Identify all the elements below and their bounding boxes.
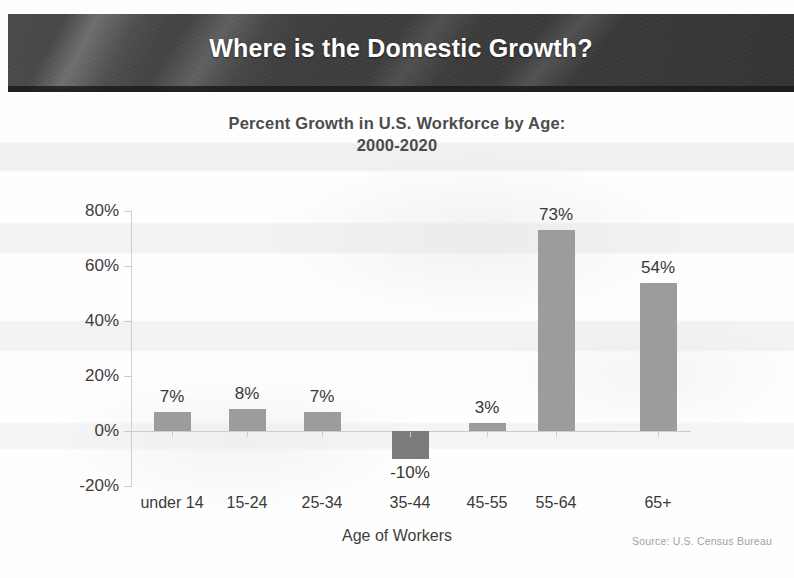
x-axis-category-label: 45-55 bbox=[432, 494, 542, 512]
x-axis-tick-mark bbox=[247, 432, 248, 437]
chart-title: Percent Growth in U.S. Workforce by Age:… bbox=[0, 112, 794, 156]
x-axis-tick-mark bbox=[487, 432, 488, 437]
slide-title: Where is the Domestic Growth? bbox=[8, 34, 794, 63]
x-axis-category-label: 55-64 bbox=[501, 494, 611, 512]
x-axis-category-label: 65+ bbox=[603, 494, 713, 512]
x-axis-category-label: 25-34 bbox=[267, 494, 377, 512]
bar-under-14 bbox=[154, 412, 191, 431]
y-axis-tick-label: 0% bbox=[53, 421, 119, 441]
y-axis-tick-label: 40% bbox=[53, 311, 119, 331]
y-axis-tick-mark bbox=[124, 431, 132, 432]
bar-value-label: 7% bbox=[127, 387, 217, 407]
bar-65+ bbox=[640, 283, 677, 432]
chart-title-line-1: Percent Growth in U.S. Workforce by Age: bbox=[228, 114, 565, 132]
x-axis-tick-mark bbox=[410, 432, 411, 437]
y-axis-tick-mark bbox=[124, 486, 132, 487]
y-axis-tick-mark bbox=[124, 211, 132, 212]
slide-header-banner: Where is the Domestic Growth? bbox=[8, 14, 794, 92]
y-axis-tick-mark bbox=[124, 266, 132, 267]
x-axis-category-label: 35-44 bbox=[355, 494, 465, 512]
zero-baseline bbox=[131, 431, 691, 432]
bar-value-label: 8% bbox=[202, 384, 292, 404]
x-axis-tick-mark bbox=[322, 432, 323, 437]
bar-value-label: -10% bbox=[365, 463, 455, 483]
bar-value-label: 7% bbox=[277, 387, 367, 407]
bar-25-34 bbox=[304, 412, 341, 431]
chart-title-line-2: 2000-2020 bbox=[0, 134, 794, 156]
y-axis-tick-mark bbox=[124, 321, 132, 322]
bar-value-label: 73% bbox=[511, 205, 601, 225]
x-axis-category-label: 15-24 bbox=[192, 494, 302, 512]
x-axis-category-label: under 14 bbox=[117, 494, 227, 512]
y-axis-tick-label: 80% bbox=[53, 201, 119, 221]
x-axis-tick-mark bbox=[556, 432, 557, 437]
y-axis-line bbox=[131, 211, 132, 487]
bar-45-55 bbox=[469, 423, 506, 431]
x-axis-tick-mark bbox=[658, 432, 659, 437]
paper-texture-background bbox=[0, 92, 794, 578]
bar-value-label: 54% bbox=[613, 258, 703, 278]
y-axis-tick-label: 20% bbox=[53, 366, 119, 386]
banner-bottom-edge bbox=[8, 86, 794, 92]
y-axis-tick-label: -20% bbox=[53, 476, 119, 496]
bar-35-44 bbox=[392, 431, 429, 459]
slide-page: Where is the Domestic Growth? Percent Gr… bbox=[0, 0, 794, 578]
source-note: Source: U.S. Census Bureau bbox=[632, 535, 772, 547]
y-axis-tick-mark bbox=[124, 376, 132, 377]
x-axis-tick-mark bbox=[172, 432, 173, 437]
bar-55-64 bbox=[538, 230, 575, 431]
bar-15-24 bbox=[229, 409, 266, 431]
bar-value-label: 3% bbox=[442, 398, 532, 418]
y-axis-tick-label: 60% bbox=[53, 256, 119, 276]
